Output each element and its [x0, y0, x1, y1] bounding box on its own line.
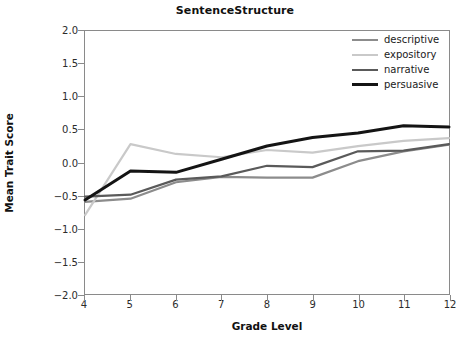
- legend-label: descriptive: [384, 33, 439, 46]
- y-tick-mark: [78, 229, 84, 230]
- legend-item-descriptive[interactable]: descriptive: [352, 33, 439, 46]
- legend-label: narrative: [384, 63, 429, 76]
- y-tick-label: 1.0: [36, 91, 78, 102]
- legend-swatch-icon: [352, 69, 378, 71]
- legend-item-expository[interactable]: expository: [352, 48, 439, 61]
- x-tick-mark: [221, 295, 222, 301]
- x-tick-mark: [450, 295, 451, 301]
- x-tick-mark: [84, 295, 85, 301]
- y-tick-mark: [78, 196, 84, 197]
- legend-swatch-icon: [352, 83, 378, 86]
- x-tick-mark: [267, 295, 268, 301]
- y-tick-mark: [78, 262, 84, 263]
- y-tick-label: 0.5: [36, 124, 78, 135]
- y-tick-mark: [78, 129, 84, 130]
- x-tick-mark: [404, 295, 405, 301]
- x-tick-mark: [313, 295, 314, 301]
- series-line-descriptive: [85, 145, 449, 202]
- x-tick-mark: [359, 295, 360, 301]
- y-tick-mark: [78, 96, 84, 97]
- y-tick-label: −1.0: [36, 223, 78, 234]
- y-tick-mark: [78, 63, 84, 64]
- y-tick-label: 0.0: [36, 157, 78, 168]
- x-axis-label: Grade Level: [84, 320, 450, 332]
- y-tick-label: −0.5: [36, 190, 78, 201]
- y-tick-label: −1.5: [36, 256, 78, 267]
- legend-label: expository: [384, 48, 436, 61]
- legend-item-narrative[interactable]: narrative: [352, 63, 439, 76]
- y-tick-label: 1.5: [36, 58, 78, 69]
- y-tick-mark: [78, 30, 84, 31]
- y-axis-ticks: 2.01.51.00.50.0−0.5−1.0−1.5−2.0: [0, 0, 78, 342]
- x-tick-mark: [130, 295, 131, 301]
- y-tick-mark: [78, 163, 84, 164]
- chart-container: SentenceStructure Mean Trait Score 2.01.…: [0, 0, 470, 342]
- y-tick-label: 2.0: [36, 25, 78, 36]
- legend-swatch-icon: [352, 39, 378, 41]
- x-tick-mark: [176, 295, 177, 301]
- series-line-persuasive: [85, 126, 449, 200]
- legend-swatch-icon: [352, 54, 378, 56]
- legend-label: persuasive: [384, 78, 438, 91]
- legend-item-persuasive[interactable]: persuasive: [352, 78, 439, 91]
- chart-legend: descriptiveexpositorynarrativepersuasive: [352, 33, 439, 91]
